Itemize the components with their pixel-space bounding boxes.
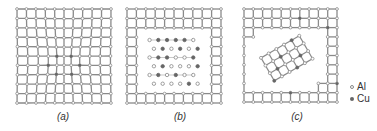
panel-label-b: (b) (174, 111, 186, 122)
panel-a-coherent-lattice (16, 8, 113, 105)
legend-label-al: Al (357, 81, 366, 93)
panel-label-c: (c) (291, 111, 303, 122)
legend-item-cu: Cu (350, 93, 370, 105)
legend-label-cu: Cu (357, 93, 370, 105)
legend: Al Cu (350, 81, 370, 105)
open-circle-icon (350, 85, 354, 89)
filled-circle-icon (350, 97, 354, 101)
legend-item-al: Al (350, 81, 370, 93)
panel-b-ordered-precipitate (126, 8, 223, 105)
panel-label-a: (a) (57, 111, 69, 122)
panel-c-rotated-precipitate (243, 8, 339, 104)
